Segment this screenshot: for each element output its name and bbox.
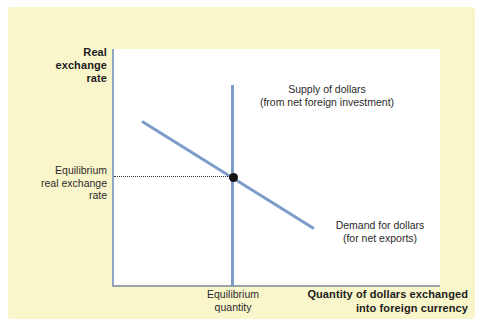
x-axis-line <box>112 285 440 287</box>
supply-curve-label: Supply of dollars (from net foreign inve… <box>222 83 432 109</box>
supply-curve <box>231 85 234 286</box>
y-axis-equilibrium-label: Equilibrium real exchange rate <box>2 164 107 202</box>
equilibrium-point-marker <box>229 173 238 182</box>
y-axis-title: Real exchange rate <box>12 46 107 85</box>
equilibrium-price-guide <box>114 176 232 177</box>
x-axis-title: Quantity of dollars exchanged into forei… <box>268 288 468 315</box>
demand-curve-label: Demand for dollars (for net exports) <box>310 219 450 245</box>
y-axis-line <box>112 49 114 286</box>
figure-root: Real exchange rate Equilibrium real exch… <box>0 0 491 327</box>
